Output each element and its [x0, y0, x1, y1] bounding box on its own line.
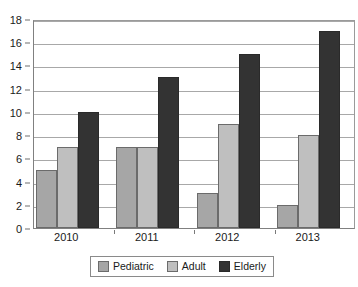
bar-group	[197, 21, 260, 228]
y-axis-tick-label: 6	[16, 154, 22, 165]
bar-pediatric-2012[interactable]	[197, 193, 218, 228]
y-axis-tick-label: 14	[10, 61, 22, 72]
bar-elderly-2013[interactable]	[319, 31, 340, 228]
legend-swatch-icon	[98, 261, 109, 272]
x-axis-tick-label: 2011	[135, 232, 159, 243]
y-axis-tick-label: 12	[10, 84, 22, 95]
legend-swatch-icon	[219, 261, 230, 272]
bar-elderly-2012[interactable]	[239, 54, 260, 228]
bar-group	[277, 21, 340, 228]
x-axis-tick-mark	[114, 230, 115, 234]
bar-group	[116, 21, 179, 228]
y-axis-tick-mark	[25, 229, 30, 230]
bar-group	[36, 21, 99, 228]
chart-legend: PediatricAdultElderly	[90, 256, 274, 277]
legend-label: Adult	[182, 261, 206, 272]
legend-item-pediatric[interactable]: Pediatric	[98, 261, 154, 272]
x-axis: 2010201120122013	[33, 230, 355, 248]
legend-item-adult[interactable]: Adult	[167, 261, 206, 272]
y-axis-tick-label: 18	[10, 15, 22, 26]
bar-adult-2013[interactable]	[298, 135, 319, 228]
x-axis-tick-label: 2013	[296, 232, 320, 243]
plot-area	[33, 20, 355, 229]
y-axis-tick-mark	[25, 112, 30, 113]
y-axis-tick-mark	[25, 205, 30, 206]
bar-pediatric-2011[interactable]	[116, 147, 137, 228]
legend-swatch-icon	[167, 261, 178, 272]
x-axis-tick-label: 2010	[54, 232, 78, 243]
y-axis-tick-mark	[25, 43, 30, 44]
bar-adult-2010[interactable]	[57, 147, 78, 228]
y-axis-tick-label: 8	[16, 131, 22, 142]
bar-chart: 024681012141618 2010201120122013 Pediatr…	[0, 0, 358, 287]
bar-elderly-2011[interactable]	[158, 77, 179, 228]
bar-pediatric-2010[interactable]	[36, 170, 57, 228]
y-axis-tick-mark	[25, 89, 30, 90]
bars-layer	[34, 21, 354, 228]
y-axis-tick-mark	[25, 182, 30, 183]
y-axis-tick-label: 16	[10, 38, 22, 49]
x-axis-tick-mark	[275, 230, 276, 234]
legend-label: Elderly	[234, 261, 266, 272]
y-axis-tick-mark	[25, 66, 30, 67]
bar-adult-2012[interactable]	[218, 124, 239, 229]
bar-elderly-2010[interactable]	[78, 112, 99, 228]
y-axis-tick-mark	[25, 136, 30, 137]
x-axis-tick-label: 2012	[215, 232, 239, 243]
legend-item-elderly[interactable]: Elderly	[219, 261, 266, 272]
y-axis-tick-label: 10	[10, 107, 22, 118]
y-axis-tick-label: 2	[16, 200, 22, 211]
x-axis-tick-mark	[194, 230, 195, 234]
y-axis-tick-label: 0	[16, 224, 22, 235]
bar-pediatric-2013[interactable]	[277, 205, 298, 228]
y-axis-tick-mark	[25, 159, 30, 160]
bar-adult-2011[interactable]	[137, 147, 158, 228]
y-axis-tick-label: 4	[16, 177, 22, 188]
y-axis-tick-mark	[25, 20, 30, 21]
legend-label: Pediatric	[113, 261, 154, 272]
y-axis: 024681012141618	[0, 20, 30, 229]
